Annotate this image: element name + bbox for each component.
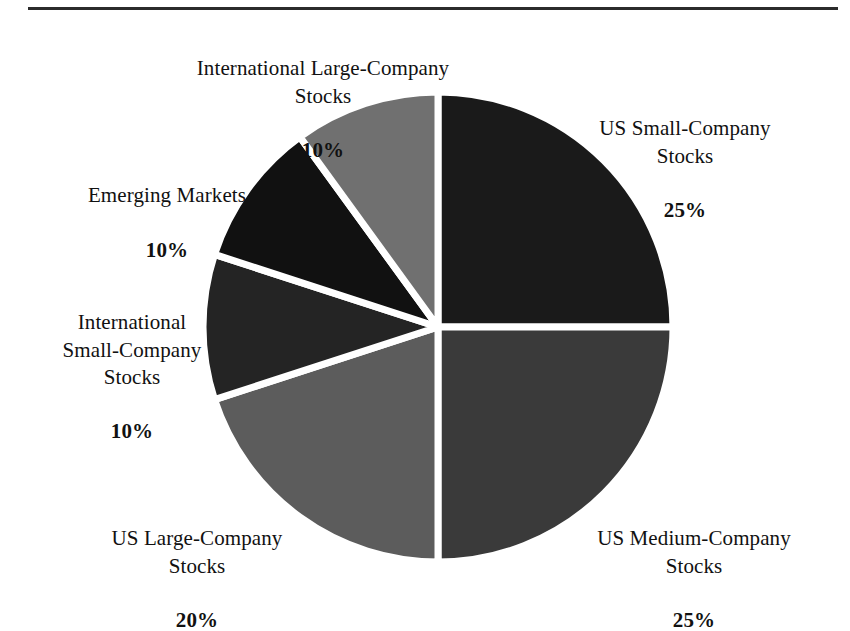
slice-label-name: Emerging Markets: [42, 182, 292, 209]
slice-label-us-large-company: US Large-Company Stocks 20%: [52, 498, 342, 631]
slice-label-us-medium-company: US Medium-Company Stocks 25%: [548, 498, 840, 631]
slice-label-percent: 10%: [42, 237, 292, 264]
slice-label-name: US Medium-Company Stocks: [548, 525, 840, 580]
slice-label-percent: 25%: [548, 607, 840, 631]
slice-label-name: US Large-Company Stocks: [52, 525, 342, 580]
slice-label-international-small-company: International Small-Company Stocks 10%: [14, 282, 250, 473]
slice-label-percent: 20%: [52, 607, 342, 631]
slice-label-percent: 10%: [14, 418, 250, 445]
slice-label-emerging-markets: Emerging Markets 10%: [42, 155, 292, 291]
slice-label-name: US Small-Company Stocks: [540, 115, 830, 170]
slice-label-percent: 25%: [540, 197, 830, 224]
slice-label-us-small-company: US Small-Company Stocks 25%: [540, 88, 830, 252]
slice-label-name: International Large-Company Stocks: [158, 55, 488, 110]
slice-label-name: International Small-Company Stocks: [14, 309, 250, 391]
